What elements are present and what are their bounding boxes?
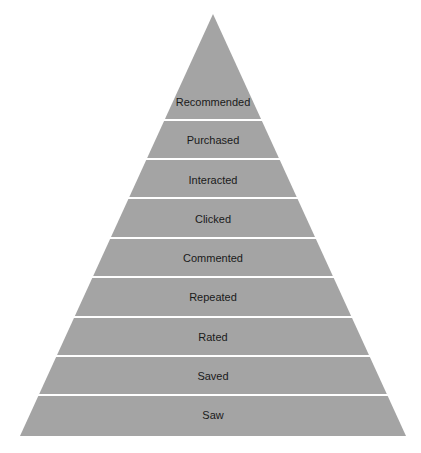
level-label: Recommended (113, 96, 313, 109)
level-label: Repeated (113, 291, 313, 304)
level-label: Rated (113, 331, 313, 344)
level-label: Purchased (113, 134, 313, 147)
level-label: Interacted (113, 174, 313, 187)
level-label: Saw (113, 409, 313, 422)
level-label: Commented (113, 252, 313, 265)
level-label: Saved (113, 370, 313, 383)
level-label: Clicked (113, 213, 313, 226)
pyramid-diagram (0, 0, 421, 453)
